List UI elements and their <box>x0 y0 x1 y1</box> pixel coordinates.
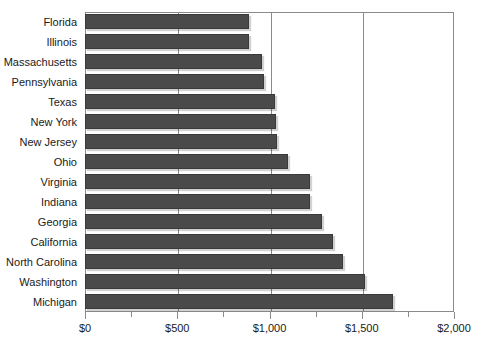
bar[interactable] <box>85 114 276 129</box>
x-tick-major <box>270 312 271 319</box>
x-tick-minor <box>131 312 132 317</box>
x-tick-major <box>85 312 86 319</box>
bar-row <box>85 152 454 172</box>
x-axis-tick-label: $2,000 <box>437 322 471 334</box>
bar-row <box>85 92 454 112</box>
y-axis-label: Virginia <box>0 172 81 192</box>
y-axis-label: North Carolina <box>0 252 81 272</box>
y-axis-label: Michigan <box>0 292 81 312</box>
x-tick-minor <box>223 312 224 317</box>
bar-row <box>85 212 454 232</box>
bar-row <box>85 132 454 152</box>
y-axis-label: Illinois <box>0 32 81 52</box>
x-tick-minor <box>408 312 409 317</box>
x-axis-tick-label: $500 <box>165 322 189 334</box>
x-axis-tick-label: $0 <box>79 322 91 334</box>
y-axis-label: Florida <box>0 12 81 32</box>
y-axis-label: Texas <box>0 92 81 112</box>
bar[interactable] <box>85 174 310 189</box>
bar[interactable] <box>85 294 393 309</box>
y-axis-label: California <box>0 232 81 252</box>
bar-row <box>85 112 454 132</box>
bar[interactable] <box>85 154 288 169</box>
bar-series <box>85 12 454 312</box>
bar-row <box>85 192 454 212</box>
bar-row <box>85 272 454 292</box>
bar[interactable] <box>85 274 365 289</box>
y-axis-label: New Jersey <box>0 132 81 152</box>
bar[interactable] <box>85 94 275 109</box>
bar-row <box>85 52 454 72</box>
bar[interactable] <box>85 254 343 269</box>
bar[interactable] <box>85 14 249 29</box>
bar[interactable] <box>85 234 333 249</box>
y-axis-label: Massachusetts <box>0 52 81 72</box>
x-tick-minor <box>316 312 317 317</box>
y-axis-label: Pennsylvania <box>0 72 81 92</box>
bar[interactable] <box>85 74 264 89</box>
bar-row <box>85 12 454 32</box>
y-axis-category-labels: FloridaIllinoisMassachusettsPennsylvania… <box>0 12 81 312</box>
y-axis-label: Indiana <box>0 192 81 212</box>
x-tick-major <box>454 312 455 319</box>
y-axis-label: Washington <box>0 272 81 292</box>
bar[interactable] <box>85 34 249 49</box>
bar-row <box>85 72 454 92</box>
bar-row <box>85 292 454 312</box>
bar[interactable] <box>85 54 262 69</box>
bar-row <box>85 252 454 272</box>
bar[interactable] <box>85 134 277 149</box>
y-axis-label: New York <box>0 112 81 132</box>
x-axis-tick-label: $1,500 <box>345 322 379 334</box>
bar-row <box>85 172 454 192</box>
y-axis-label: Georgia <box>0 212 81 232</box>
bar[interactable] <box>85 194 310 209</box>
x-axis-tick-label: $1,000 <box>253 322 287 334</box>
bar-row <box>85 232 454 252</box>
x-axis-tick-labels: $0$500$1,000$1,500$2,000 <box>0 322 481 342</box>
bar[interactable] <box>85 214 322 229</box>
bar-row <box>85 32 454 52</box>
x-tick-major <box>362 312 363 319</box>
bar-chart: FloridaIllinoisMassachusettsPennsylvania… <box>0 0 481 352</box>
x-axis-ticks <box>85 312 454 320</box>
x-tick-major <box>177 312 178 319</box>
y-axis-label: Ohio <box>0 152 81 172</box>
